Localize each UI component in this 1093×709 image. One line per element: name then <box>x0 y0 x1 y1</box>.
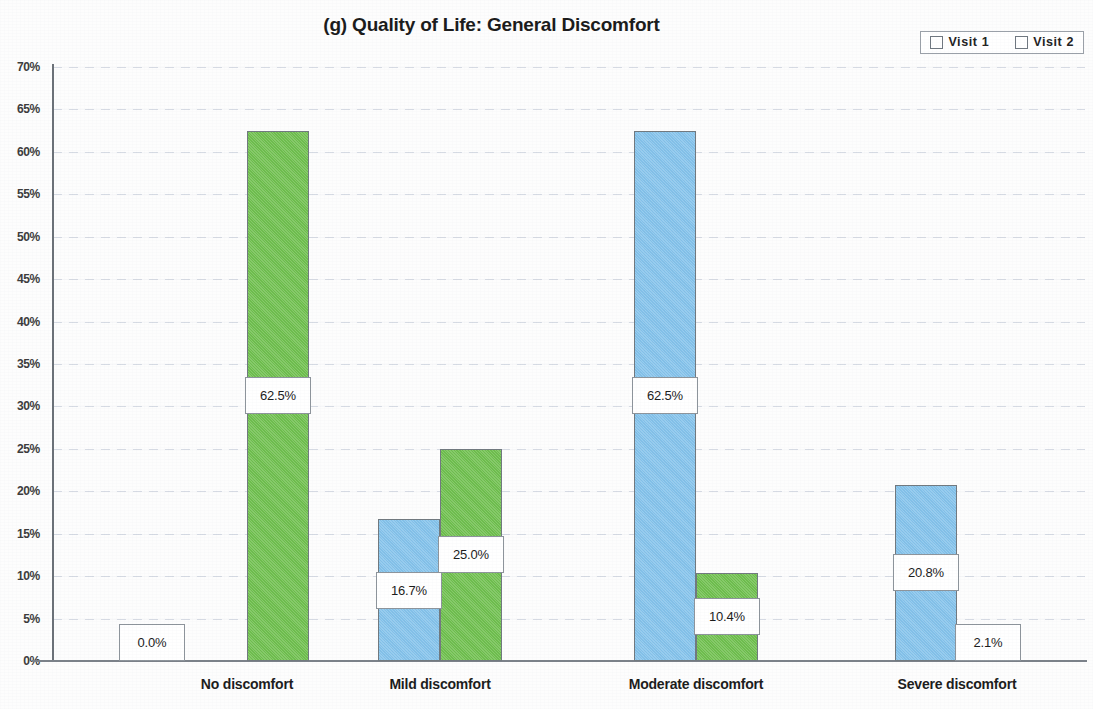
y-axis-tick-label: 50% <box>0 230 40 244</box>
y-axis-tick-label: 30% <box>0 399 40 413</box>
data-label: 62.5% <box>245 377 311 414</box>
chart-figure: (g) Quality of Life: General Discomfort … <box>0 0 1093 709</box>
gridline <box>53 67 1085 68</box>
data-label: 25.0% <box>438 536 504 573</box>
chart-legend: Visit 1 Visit 2 <box>920 31 1084 54</box>
gridline <box>53 194 1085 195</box>
data-label: 0.0% <box>119 624 185 661</box>
y-axis-tick-label: 65% <box>0 102 40 116</box>
legend-label-visit-1: Visit 1 <box>948 35 989 49</box>
y-axis-tick-label: 5% <box>0 612 40 626</box>
data-label: 16.7% <box>376 572 442 609</box>
legend-entry-visit-2[interactable]: Visit 2 <box>1015 35 1074 49</box>
y-axis-tick-label: 15% <box>0 527 40 541</box>
gridline <box>53 406 1085 407</box>
gridline <box>53 364 1085 365</box>
gridline <box>53 152 1085 153</box>
y-axis-line <box>52 64 54 662</box>
legend-swatch-visit-2 <box>1015 36 1028 49</box>
y-axis-tick-label: 10% <box>0 569 40 583</box>
y-axis-tick-label: 25% <box>0 442 40 456</box>
y-axis-tick-label: 55% <box>0 187 40 201</box>
x-axis-category-label: Moderate discomfort <box>629 676 764 692</box>
data-label: 10.4% <box>694 598 760 635</box>
legend-swatch-visit-1 <box>930 36 943 49</box>
x-axis-category-label: No discomfort <box>201 676 293 692</box>
gridline <box>53 109 1085 110</box>
x-axis-category-label: Severe discomfort <box>898 676 1017 692</box>
gridline <box>53 322 1085 323</box>
gridline <box>53 237 1085 238</box>
gridline <box>53 449 1085 450</box>
x-axis-category-label: Mild discomfort <box>389 676 490 692</box>
legend-label-visit-2: Visit 2 <box>1033 35 1074 49</box>
data-label: 62.5% <box>632 377 698 414</box>
y-axis-tick-label: 35% <box>0 357 40 371</box>
data-label: 2.1% <box>955 624 1021 661</box>
legend-entry-visit-1[interactable]: Visit 1 <box>930 35 989 49</box>
y-axis-tick-label: 60% <box>0 145 40 159</box>
y-axis-tick-label: 20% <box>0 484 40 498</box>
y-axis-tick-label: 45% <box>0 272 40 286</box>
plot-area: 0%5%10%15%20%25%30%35%40%45%50%55%60%65%… <box>53 67 1085 661</box>
gridline <box>53 279 1085 280</box>
data-label: 20.8% <box>893 554 959 591</box>
y-axis-tick-label: 40% <box>0 315 40 329</box>
y-axis-tick-label: 70% <box>0 60 40 74</box>
